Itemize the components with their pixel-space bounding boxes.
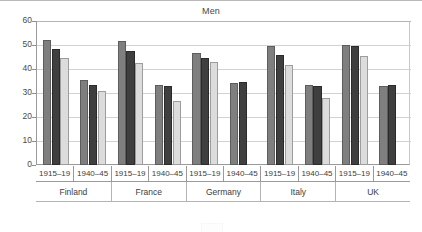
x-axis-period-label: 1940–45	[73, 166, 110, 181]
x-axis-period-band: 1915–191940–451915–191940–451915–191940–…	[36, 166, 410, 182]
bar-series-layer	[37, 22, 409, 165]
x-axis-period-label: 1915–19	[260, 166, 297, 181]
bar	[313, 86, 321, 165]
bar	[276, 55, 284, 165]
x-axis-country-label: Italy	[260, 182, 335, 201]
bar	[322, 98, 330, 165]
frame-top-border	[0, 0, 422, 1]
y-axis-tick-label: 40	[6, 63, 32, 73]
bar	[52, 49, 60, 165]
bar	[173, 101, 181, 165]
bar	[118, 41, 126, 165]
y-axis-tick-label: 50	[6, 39, 32, 49]
x-axis-period-label: 1940–45	[223, 166, 260, 181]
y-axis-tick-label: 0	[6, 159, 32, 169]
bar	[239, 82, 247, 165]
x-axis-period-label: 1915–19	[186, 166, 223, 181]
x-axis-country-band: FinlandFranceGermanyItalyUK	[36, 182, 410, 202]
bar	[135, 63, 143, 165]
bar	[305, 85, 313, 165]
bar	[98, 91, 106, 165]
bar	[267, 46, 275, 165]
bar	[89, 85, 97, 165]
bar	[388, 85, 396, 165]
bar	[360, 56, 368, 165]
bar	[285, 65, 293, 165]
chart-title: Men	[0, 6, 422, 16]
x-axis-period-label: 1915–19	[36, 166, 73, 181]
bar	[351, 46, 359, 165]
bar	[379, 86, 387, 165]
bar	[126, 51, 134, 165]
x-axis-country-label: Germany	[186, 182, 261, 201]
bar	[60, 58, 68, 165]
x-axis-period-label: 1940–45	[148, 166, 185, 181]
x-axis-country-label: France	[111, 182, 186, 201]
legend-swatch-cropped	[201, 223, 223, 232]
bar	[342, 45, 350, 165]
x-axis-period-label: 1915–19	[111, 166, 148, 181]
bar	[43, 40, 51, 165]
bar	[80, 80, 88, 165]
y-axis: 6050403020100	[0, 0, 32, 232]
bar	[230, 83, 238, 165]
x-axis-period-label: 1915–19	[335, 166, 372, 181]
bar	[192, 53, 200, 165]
bar	[164, 86, 172, 165]
bar	[201, 58, 209, 165]
chart-container: Men 6050403020100 1915–191940–451915–191…	[0, 0, 422, 232]
x-axis-period-label: 1940–45	[373, 166, 410, 181]
x-axis-period-label: 1940–45	[298, 166, 335, 181]
y-axis-tick-label: 10	[6, 135, 32, 145]
bar	[210, 62, 218, 165]
x-axis-country-label: Finland	[36, 182, 111, 201]
bar	[155, 85, 163, 165]
x-axis-country-label: UK	[335, 182, 410, 201]
y-axis-tick-label: 60	[6, 15, 32, 25]
y-axis-tick-label: 20	[6, 111, 32, 121]
y-axis-tick-label: 30	[6, 87, 32, 97]
